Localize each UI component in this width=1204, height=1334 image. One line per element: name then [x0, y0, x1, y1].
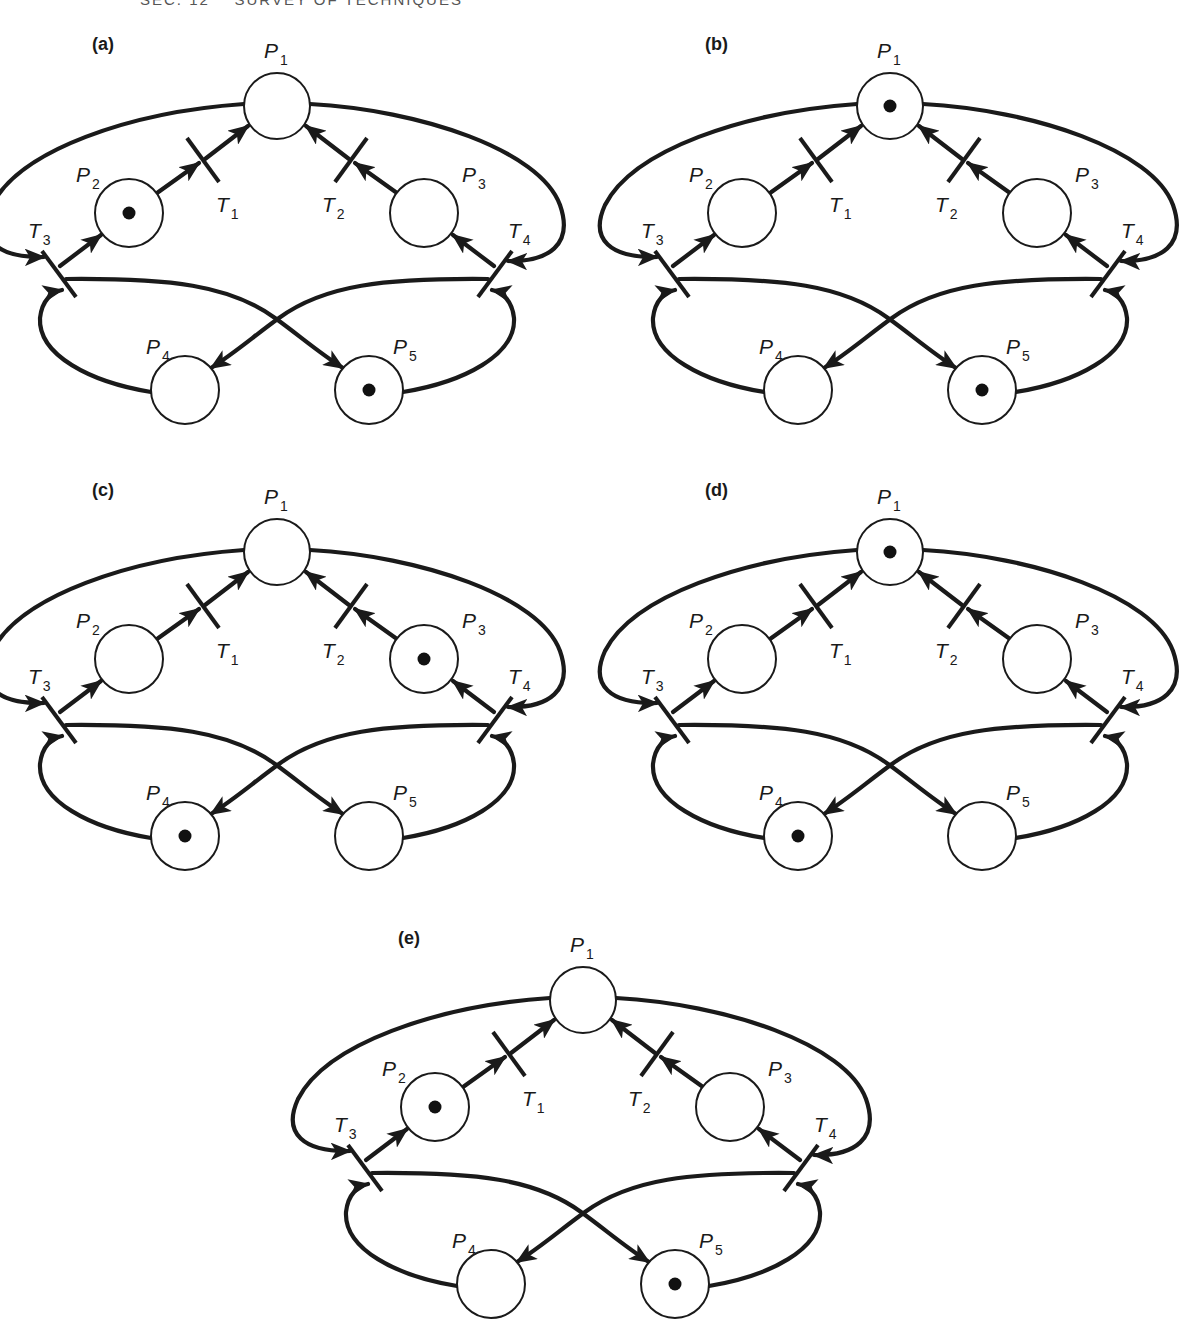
arc-p4-to-t3: [40, 290, 151, 392]
arc-t2-to-p1: [612, 1020, 655, 1053]
arc-t4-to-p4: [517, 1173, 794, 1262]
label-p5: P5: [393, 781, 417, 810]
transition-t1: [800, 584, 832, 628]
transition-t2: [335, 584, 367, 628]
panel-label: (e): [398, 928, 420, 948]
token-p2: [123, 207, 136, 220]
label-t3: T3: [28, 219, 51, 248]
arc-t4-to-p4: [211, 279, 488, 368]
arc-t4-to-p4: [824, 279, 1101, 368]
arc-p5-to-t4: [403, 290, 514, 392]
petri-net-panel-e: (e) P1: [293, 928, 870, 1318]
label-t3: T3: [334, 1113, 357, 1142]
place-p4: [457, 1250, 525, 1318]
place-p2: [708, 179, 776, 247]
arc-t4-to-p4: [211, 725, 488, 814]
token-p2: [429, 1101, 442, 1114]
token-p4: [179, 830, 192, 843]
label-p4: P4: [452, 1229, 476, 1258]
label-p2: P2: [689, 163, 713, 192]
transition-t1: [187, 584, 219, 628]
arc-p2-to-t1: [770, 163, 812, 193]
label-p4: P4: [146, 781, 170, 810]
arc-t2-to-p1: [306, 126, 349, 159]
label-p3: P3: [462, 609, 486, 638]
place-p1: [550, 967, 616, 1033]
token-p3: [418, 653, 431, 666]
arc-t3-to-p2: [366, 1129, 407, 1160]
label-p5: P5: [1006, 781, 1030, 810]
arc-t3-to-p2: [60, 235, 101, 266]
arc-t3-to-p2: [673, 681, 714, 712]
label-t1: T1: [829, 639, 852, 668]
place-p3: [696, 1073, 764, 1141]
label-t4: T4: [1121, 665, 1144, 694]
place-p1: [244, 519, 310, 585]
arc-p4-to-t3: [653, 736, 764, 838]
label-p1: P1: [570, 933, 594, 962]
panels-container: (a) P1: [0, 34, 1177, 1318]
petri-net-panel-b: (b) P1: [600, 34, 1177, 424]
place-p4: [151, 356, 219, 424]
panel-label: (a): [92, 34, 114, 54]
arc-t2-to-p1: [919, 126, 962, 159]
label-p5: P5: [1006, 335, 1030, 364]
place-p2: [708, 625, 776, 693]
token-p5: [363, 384, 376, 397]
arc-p3-to-t2: [968, 609, 1010, 639]
place-p5: [948, 802, 1016, 870]
arc-t3-to-p5: [679, 725, 956, 814]
label-t1: T1: [522, 1087, 545, 1116]
place-p1: [244, 73, 310, 139]
label-t4: T4: [508, 665, 531, 694]
arc-p3-to-t2: [355, 163, 397, 193]
arc-p5-to-t4: [1016, 736, 1127, 838]
label-p3: P3: [1075, 609, 1099, 638]
token-p4: [792, 830, 805, 843]
arc-p4-to-t3: [346, 1184, 457, 1286]
place-p5: [335, 802, 403, 870]
transition-t1: [493, 1032, 525, 1076]
label-p4: P4: [146, 335, 170, 364]
arc-t4-to-p4: [824, 725, 1101, 814]
arc-t3-to-p2: [60, 681, 101, 712]
transition-t2: [641, 1032, 673, 1076]
transition-t2: [948, 584, 980, 628]
label-p3: P3: [768, 1057, 792, 1086]
place-p2: [95, 625, 163, 693]
arc-t3-to-p5: [679, 279, 956, 368]
arc-t4-to-p3: [1066, 235, 1107, 266]
arc-t4-to-p3: [453, 235, 494, 266]
label-p1: P1: [264, 485, 288, 514]
arc-t3-to-p5: [66, 725, 343, 814]
label-p4: P4: [759, 781, 783, 810]
arc-t4-to-p3: [759, 1129, 800, 1160]
token-p5: [669, 1278, 682, 1291]
transition-t2: [335, 138, 367, 182]
panel-label: (b): [705, 34, 728, 54]
label-p5: P5: [393, 335, 417, 364]
label-p3: P3: [1075, 163, 1099, 192]
label-t1: T1: [829, 193, 852, 222]
arc-p3-to-t2: [661, 1057, 703, 1087]
label-p2: P2: [76, 163, 100, 192]
arc-t3-to-p5: [372, 1173, 649, 1262]
transition-t2: [948, 138, 980, 182]
arc-t3-to-p5: [66, 279, 343, 368]
arc-t1-to-p1: [818, 126, 861, 159]
transition-t1: [800, 138, 832, 182]
arc-t3-to-p2: [673, 235, 714, 266]
petri-net-panel-d: (d) P1: [600, 480, 1177, 870]
label-t2: T2: [322, 193, 345, 222]
arc-p5-to-t4: [709, 1184, 820, 1286]
place-p4: [764, 356, 832, 424]
label-t3: T3: [28, 665, 51, 694]
arc-p2-to-t1: [157, 609, 199, 639]
label-t4: T4: [814, 1113, 837, 1142]
label-p5: P5: [699, 1229, 723, 1258]
label-t2: T2: [935, 639, 958, 668]
label-t4: T4: [1121, 219, 1144, 248]
arc-t2-to-p1: [919, 572, 962, 605]
label-t3: T3: [641, 665, 664, 694]
arc-p3-to-t2: [968, 163, 1010, 193]
